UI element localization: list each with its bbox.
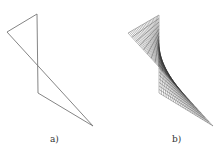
figure-b-label: b)	[172, 134, 181, 144]
figure-b-ruled-surface	[128, 15, 213, 126]
diagram-canvas	[0, 0, 216, 150]
figure-a-label: a)	[50, 134, 59, 144]
figure-a-quadrilateral	[7, 14, 93, 126]
